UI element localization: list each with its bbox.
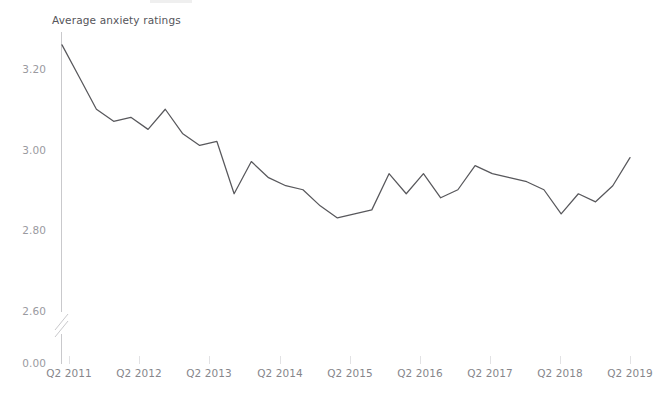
x-tick-label-q2-2011: Q2 2011 xyxy=(46,367,92,379)
x-tick-label-q2-2012: Q2 2012 xyxy=(116,367,162,379)
x-tick-marks xyxy=(70,356,631,364)
x-tick-label-q2-2016: Q2 2016 xyxy=(397,367,443,379)
x-tick-label-q2-2013: Q2 2013 xyxy=(186,367,232,379)
y-axis-group xyxy=(55,32,68,364)
y-tick-label-320: 3.20 xyxy=(22,63,46,75)
chart-container: Average anxiety ratings 3.20 3.00 2.80 2… xyxy=(0,0,667,399)
anxiety-ratings-line xyxy=(62,45,630,218)
y-tick-labels: 3.20 3.00 2.80 2.60 0.00 xyxy=(22,63,46,369)
x-tick-label-q2-2015: Q2 2015 xyxy=(327,367,373,379)
x-tick-labels: Q2 2011 Q2 2012 Q2 2013 Q2 2014 Q2 2015 … xyxy=(46,367,653,379)
y-tick-label-300: 3.00 xyxy=(22,144,46,156)
top-edge-artifact xyxy=(150,0,192,3)
chart-title: Average anxiety ratings xyxy=(52,14,181,26)
x-tick-label-q2-2014: Q2 2014 xyxy=(257,367,303,379)
x-tick-label-q2-2018: Q2 2018 xyxy=(537,367,583,379)
line-chart: Average anxiety ratings 3.20 3.00 2.80 2… xyxy=(0,0,667,399)
y-tick-label-260: 2.60 xyxy=(22,305,46,317)
y-tick-label-000: 0.00 xyxy=(22,357,46,369)
x-tick-label-q2-2019: Q2 2019 xyxy=(607,367,653,379)
x-tick-label-q2-2017: Q2 2017 xyxy=(467,367,513,379)
y-tick-label-280: 2.80 xyxy=(22,224,46,236)
y-axis-break-icon xyxy=(55,314,68,337)
